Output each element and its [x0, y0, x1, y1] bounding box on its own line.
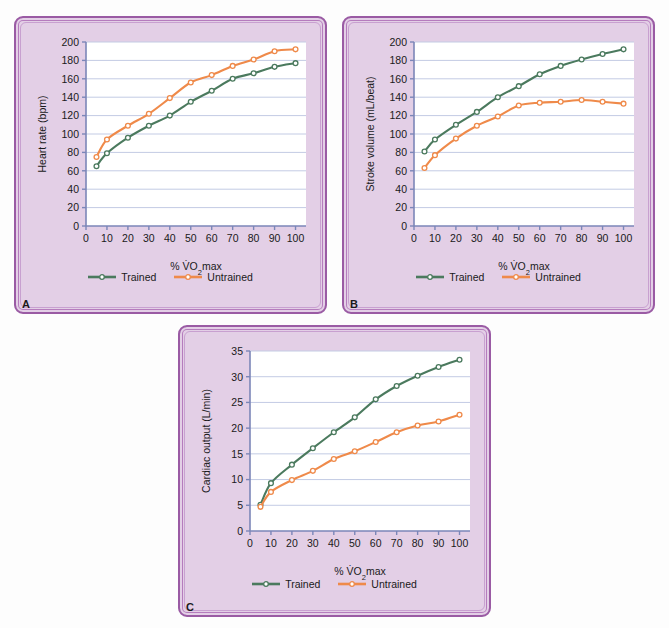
legend-line-trained-icon	[416, 268, 444, 286]
legend-line-trained-icon	[88, 268, 116, 286]
svg-text:5: 5	[237, 499, 243, 511]
legend-item-untrained[interactable]: Untrained	[338, 575, 417, 593]
legend-label-trained: Trained	[285, 578, 320, 590]
svg-text:0: 0	[73, 220, 79, 232]
chart-b: 0204060801001201401601802000102030405060…	[354, 30, 646, 282]
panel-a-legend: Trained Untrained	[16, 268, 325, 286]
svg-text:20: 20	[286, 537, 298, 549]
svg-text:60: 60	[370, 537, 382, 549]
svg-text:60: 60	[67, 165, 79, 177]
svg-text:70: 70	[555, 232, 567, 244]
svg-text:30: 30	[471, 232, 483, 244]
y-axis-title: Stroke volume (mL/beat)	[364, 77, 376, 192]
svg-text:40: 40	[492, 232, 504, 244]
svg-text:80: 80	[67, 146, 79, 158]
legend-item-trained[interactable]: Trained	[88, 268, 156, 286]
svg-text:50: 50	[349, 537, 361, 549]
panel-b: 0204060801001201401601802000102030405060…	[342, 16, 655, 314]
svg-text:50: 50	[185, 232, 197, 244]
svg-text:20: 20	[395, 201, 407, 213]
legend-label-trained: Trained	[121, 271, 156, 283]
panel-b-legend: Trained Untrained	[344, 268, 653, 286]
panel-label-b: B	[350, 298, 358, 310]
svg-text:200: 200	[61, 36, 79, 48]
svg-text:100: 100	[389, 128, 407, 140]
y-axis-title: Heart rate (bpm)	[36, 95, 48, 172]
svg-text:10: 10	[231, 473, 243, 485]
svg-text:90: 90	[433, 537, 445, 549]
svg-text:40: 40	[328, 537, 340, 549]
legend-line-untrained-icon	[174, 268, 202, 286]
legend-label-trained: Trained	[449, 271, 484, 283]
chart-c: 051015202530350102030405060708090100Card…	[190, 339, 482, 587]
panel-c-plot: 051015202530350102030405060708090100Card…	[190, 339, 481, 587]
svg-text:140: 140	[389, 91, 407, 103]
legend-item-trained[interactable]: Trained	[416, 268, 484, 286]
panel-a: 0204060801001201401601802000102030405060…	[14, 16, 327, 314]
legend-label-untrained: Untrained	[207, 271, 253, 283]
svg-text:120: 120	[61, 109, 79, 121]
figure-root: 0204060801001201401601802000102030405060…	[0, 0, 669, 628]
svg-text:40: 40	[395, 183, 407, 195]
svg-text:140: 140	[61, 91, 79, 103]
svg-text:80: 80	[248, 232, 260, 244]
svg-text:30: 30	[143, 232, 155, 244]
legend-label-untrained: Untrained	[371, 578, 417, 590]
legend-line-untrained-icon	[502, 268, 530, 286]
legend-item-untrained[interactable]: Untrained	[174, 268, 253, 286]
svg-text:20: 20	[231, 422, 243, 434]
svg-text:0: 0	[401, 220, 407, 232]
svg-text:180: 180	[61, 54, 79, 66]
svg-text:30: 30	[231, 371, 243, 383]
svg-text:90: 90	[597, 232, 609, 244]
svg-text:25: 25	[231, 396, 243, 408]
panel-a-plot: 0204060801001201401601802000102030405060…	[26, 30, 317, 282]
y-axis-title: Cardiac output (L/min)	[200, 389, 212, 493]
svg-text:80: 80	[576, 232, 588, 244]
svg-text:40: 40	[164, 232, 176, 244]
svg-text:100: 100	[61, 128, 79, 140]
svg-text:40: 40	[67, 183, 79, 195]
legend-line-untrained-icon	[338, 575, 366, 593]
svg-text:60: 60	[534, 232, 546, 244]
svg-text:100: 100	[615, 232, 633, 244]
svg-text:0: 0	[411, 232, 417, 244]
svg-text:70: 70	[391, 537, 403, 549]
svg-text:120: 120	[389, 109, 407, 121]
svg-text:160: 160	[61, 73, 79, 85]
svg-text:20: 20	[450, 232, 462, 244]
svg-text:10: 10	[265, 537, 277, 549]
svg-text:50: 50	[513, 232, 525, 244]
svg-text:0: 0	[237, 525, 243, 537]
svg-text:160: 160	[389, 73, 407, 85]
svg-text:90: 90	[269, 232, 281, 244]
svg-text:60: 60	[206, 232, 218, 244]
svg-text:100: 100	[287, 232, 305, 244]
svg-text:35: 35	[231, 345, 243, 357]
legend-label-untrained: Untrained	[535, 271, 581, 283]
svg-text:20: 20	[67, 201, 79, 213]
legend-item-trained[interactable]: Trained	[252, 575, 320, 593]
svg-text:80: 80	[412, 537, 424, 549]
panel-label-a: A	[22, 298, 30, 310]
panel-c: 051015202530350102030405060708090100Card…	[178, 325, 491, 617]
svg-text:80: 80	[395, 146, 407, 158]
svg-text:180: 180	[389, 54, 407, 66]
svg-text:0: 0	[83, 232, 89, 244]
svg-text:10: 10	[429, 232, 441, 244]
panel-b-plot: 0204060801001201401601802000102030405060…	[354, 30, 645, 282]
svg-text:100: 100	[451, 537, 469, 549]
panel-c-legend: Trained Untrained	[180, 575, 489, 593]
chart-a: 0204060801001201401601802000102030405060…	[26, 30, 318, 282]
svg-text:60: 60	[395, 165, 407, 177]
svg-text:30: 30	[307, 537, 319, 549]
svg-text:20: 20	[122, 232, 134, 244]
svg-text:0: 0	[247, 537, 253, 549]
svg-text:70: 70	[227, 232, 239, 244]
panel-label-c: C	[186, 601, 194, 613]
legend-line-trained-icon	[252, 575, 280, 593]
svg-text:15: 15	[231, 448, 243, 460]
svg-text:10: 10	[101, 232, 113, 244]
legend-item-untrained[interactable]: Untrained	[502, 268, 581, 286]
svg-text:200: 200	[389, 36, 407, 48]
